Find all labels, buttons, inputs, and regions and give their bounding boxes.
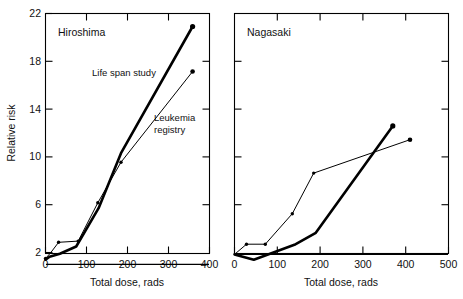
x-axis-tick-labels-right: 0 100 200 300 400 500 (232, 258, 458, 270)
series-leukemia-registry-left (46, 72, 193, 259)
x-tick-label: 500 (440, 258, 458, 270)
x-axis-title-left: Total dose, rads (90, 276, 164, 288)
plot-frame-right (235, 14, 449, 254)
x-tick-label: 0 (232, 258, 238, 270)
y-axis-ticks-right (235, 61, 449, 204)
panel-title-hiroshima: Hiroshima (58, 26, 105, 38)
x-axis-ticks-right (235, 14, 449, 254)
series-leukemia-registry-right (235, 140, 411, 255)
x-tick-label: 200 (311, 258, 329, 270)
dual-line-chart: 22 18 14 10 6 2 Relative risk (0, 0, 463, 299)
y-tick-label: 22 (29, 7, 41, 19)
series-markers-leukemia-right (245, 137, 413, 246)
x-tick-label: 400 (397, 258, 415, 270)
y-axis-title: Relative risk (5, 104, 17, 162)
series-life-span-study-left (46, 27, 193, 260)
series-markers-lifespan-right (390, 123, 395, 128)
annotation-leukemia-registry-line2: registry (154, 124, 185, 135)
series-markers-lifespan-left (190, 24, 195, 29)
x-axis-title-right: Total dose, rads (304, 276, 378, 288)
y-tick-label: 14 (29, 103, 41, 115)
x-tick-label: 300 (354, 258, 372, 270)
annotation-leukemia-registry-line1: Leukemia (154, 112, 196, 123)
y-tick-label: 18 (29, 55, 41, 67)
panel-hiroshima: 22 18 14 10 6 2 Relative risk (5, 7, 218, 288)
x-tick-label: 100 (269, 258, 287, 270)
y-tick-label: 10 (29, 150, 41, 162)
annotation-life-span-study: Life span study (92, 67, 156, 78)
panel-nagasaki: 0 100 200 300 400 500 Total dose, rads N… (232, 14, 458, 289)
y-axis-tick-labels-left: 22 18 14 10 6 2 (29, 7, 41, 258)
y-tick-label: 2 (35, 246, 41, 258)
figure-container: 22 18 14 10 6 2 Relative risk (0, 0, 463, 299)
panel-title-nagasaki: Nagasaki (247, 26, 291, 38)
series-life-span-study-right (235, 126, 393, 260)
y-tick-label: 6 (35, 198, 41, 210)
